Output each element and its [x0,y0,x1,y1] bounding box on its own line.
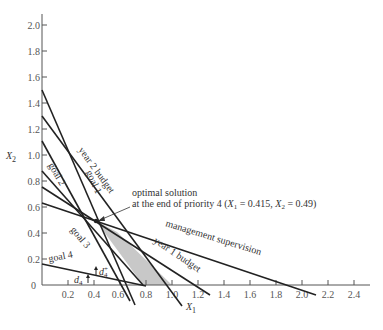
svg-text:1.0: 1.0 [28,150,41,161]
goal-4-label: goal 4 [47,248,73,264]
d4-plus-arrowhead [94,266,98,270]
year-2-budget-line [42,116,182,306]
svg-text:1.4: 1.4 [218,289,231,300]
svg-text:0.8: 0.8 [140,289,153,300]
svg-text:1.8: 1.8 [270,289,283,300]
svg-text:0.2: 0.2 [62,289,75,300]
optimal-pointer-arrowhead [98,216,105,221]
y-axis-label: X2 [5,150,16,164]
x-axis-label: X1 [185,301,196,315]
svg-text:1.6: 1.6 [244,289,257,300]
optimal-pointer [100,207,130,220]
svg-text:2.4: 2.4 [348,289,361,300]
svg-text:0.4: 0.4 [28,228,41,239]
svg-text:0.2: 0.2 [28,254,41,265]
svg-text:1.8: 1.8 [28,46,41,57]
y-tick-labels: 2.0 1.8 1.6 1.4 1.2 1.0 0.8 0.6 0.4 0.2 … [28,20,41,291]
svg-text:1.6: 1.6 [28,72,41,83]
svg-text:0.6: 0.6 [28,202,41,213]
svg-text:2.0: 2.0 [28,20,41,31]
d4-plus-label: d+4 [99,265,108,279]
svg-text:0.4: 0.4 [88,289,101,300]
goal-2-label: goal 2 [46,161,68,188]
svg-text:1.4: 1.4 [28,98,41,109]
goal-programming-chart: 2.0 1.8 1.6 1.4 1.2 1.0 0.8 0.6 0.4 0.2 … [0,0,383,330]
optimal-point [94,219,98,223]
svg-text:0: 0 [31,280,36,291]
svg-text:1.2: 1.2 [28,124,41,135]
optimal-solution-detail: at the end of priority 4 (X1 = 0.415, X2… [132,198,316,211]
svg-text:0.6: 0.6 [112,289,125,300]
goal-1-line [42,90,135,305]
x-ticks [68,280,354,285]
optimal-solution-label: optimal solution [132,187,197,198]
svg-text:2.2: 2.2 [322,289,335,300]
svg-text:0.8: 0.8 [28,176,41,187]
